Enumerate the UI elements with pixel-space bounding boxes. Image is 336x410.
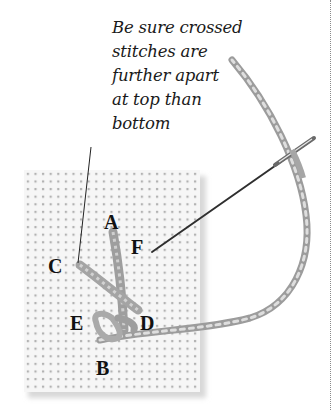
aida-fabric [24, 170, 200, 392]
label-a: A [104, 212, 118, 232]
page-margin-rule [330, 0, 331, 410]
caption-line: Be sure crossed [112, 16, 292, 40]
caption-line: bottom [112, 112, 292, 136]
caption-line: at top than [112, 88, 292, 112]
label-c: C [48, 256, 62, 276]
label-b: B [96, 358, 109, 378]
label-d: D [140, 313, 154, 333]
caption-line: stitches are [112, 40, 292, 64]
instruction-caption: Be sure crossed stitches are further apa… [112, 16, 292, 136]
caption-line: further apart [112, 64, 292, 88]
cross-stitch-diagram: Be sure crossed stitches are further apa… [0, 0, 336, 410]
label-f: F [131, 237, 143, 257]
label-e: E [70, 313, 83, 333]
